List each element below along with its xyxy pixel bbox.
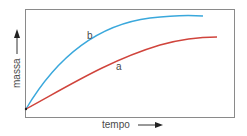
origin-point [25,108,27,110]
y-axis-label: massa [11,58,22,88]
curve-a [26,37,217,109]
y-axis-arrow-icon [14,29,20,54]
curve-a-label: a [116,61,122,72]
curve-b-label: b [87,30,93,41]
chart: b a tempo massa [0,0,247,136]
plot-frame [26,10,235,118]
x-axis-label: tempo [102,119,130,130]
x-axis-arrow-icon [138,122,163,128]
